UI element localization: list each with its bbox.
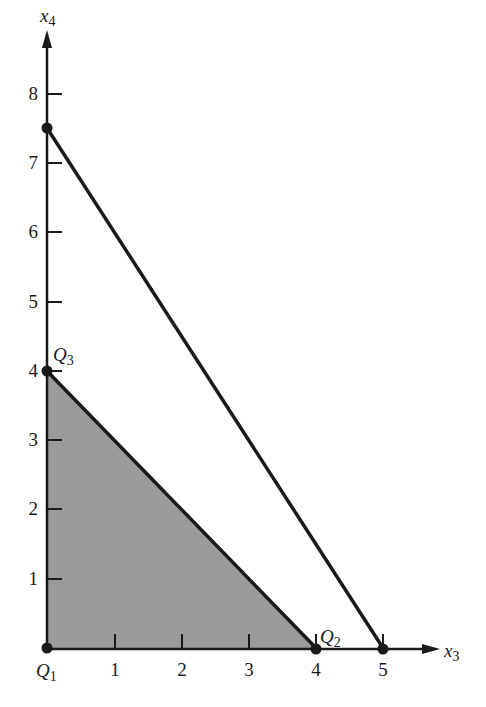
- svg-text:4: 4: [29, 360, 39, 381]
- q2-label: Q2: [320, 626, 341, 650]
- svg-text:6: 6: [29, 221, 39, 242]
- svg-text:3: 3: [244, 659, 254, 680]
- x-axis-arrow-icon: [422, 644, 440, 654]
- svg-text:3: 3: [29, 429, 39, 450]
- svg-text:5: 5: [29, 291, 39, 312]
- x-tick-labels: 1 2 3 4 5: [110, 659, 388, 680]
- y-tick-labels: 1 2 3 4 5 6 7 8: [29, 83, 39, 589]
- svg-text:1: 1: [29, 568, 39, 589]
- svg-text:8: 8: [29, 83, 39, 104]
- y-axis-arrow-icon: [42, 30, 52, 48]
- svg-text:5: 5: [378, 659, 388, 680]
- svg-text:4: 4: [311, 659, 321, 680]
- svg-text:7: 7: [29, 152, 39, 173]
- linear-program-feasible-region-chart: 1 2 3 4 5 6 7 8 1 2 3 4 5 x4 x3 Q1 Q2 Q3: [0, 0, 486, 707]
- q1-label: Q1: [36, 660, 57, 684]
- point-x4-7-5: [42, 123, 53, 134]
- svg-text:2: 2: [177, 659, 187, 680]
- point-x3-5: [378, 644, 389, 655]
- point-q3: [42, 366, 53, 377]
- y-axis-label: x4: [39, 5, 55, 29]
- x-axis-label: x3: [443, 640, 459, 664]
- point-q1: [42, 643, 53, 654]
- q3-label: Q3: [53, 344, 74, 368]
- svg-text:2: 2: [29, 498, 39, 519]
- svg-text:1: 1: [110, 659, 120, 680]
